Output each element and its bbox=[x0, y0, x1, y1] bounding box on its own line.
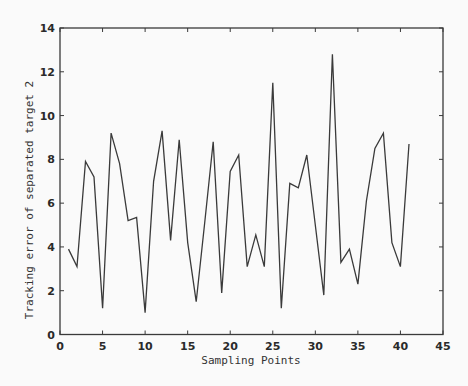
x-tick-label: 35 bbox=[350, 340, 365, 353]
x-tick-label: 20 bbox=[223, 340, 239, 353]
y-tick-label: 6 bbox=[47, 197, 55, 210]
x-tick-label: 45 bbox=[435, 340, 450, 353]
x-tick-label: 10 bbox=[137, 340, 153, 353]
x-axis-ticks: 051015202530354045 bbox=[56, 28, 450, 353]
y-tick-label: 2 bbox=[47, 285, 55, 298]
y-tick-label: 14 bbox=[40, 22, 56, 35]
y-tick-label: 12 bbox=[40, 66, 55, 79]
x-tick-label: 0 bbox=[56, 340, 64, 353]
y-tick-label: 10 bbox=[40, 110, 56, 123]
x-tick-label: 25 bbox=[265, 340, 280, 353]
x-tick-label: 5 bbox=[99, 340, 107, 353]
y-axis-label: Tracking error of separated target 2 bbox=[23, 81, 36, 319]
y-tick-label: 0 bbox=[47, 329, 55, 342]
data-series-line bbox=[69, 54, 410, 312]
x-tick-label: 30 bbox=[308, 340, 324, 353]
line-chart: 051015202530354045 02468101214 Sampling … bbox=[0, 0, 468, 386]
axes-frame bbox=[60, 28, 443, 335]
x-tick-label: 40 bbox=[393, 340, 409, 353]
y-tick-label: 8 bbox=[47, 153, 55, 166]
x-axis-label: Sampling Points bbox=[201, 354, 300, 367]
y-tick-label: 4 bbox=[47, 241, 55, 254]
x-tick-label: 15 bbox=[180, 340, 195, 353]
